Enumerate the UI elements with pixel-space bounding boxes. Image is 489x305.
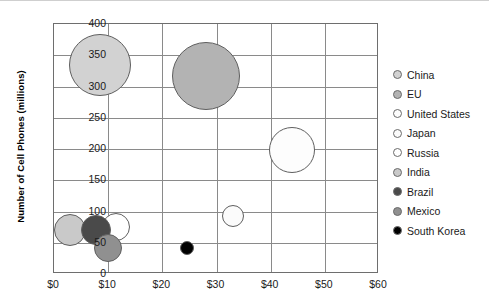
- x-tick-label: $40: [240, 278, 300, 290]
- legend-swatch-icon: [393, 207, 402, 216]
- legend-item-label: Japan: [407, 127, 436, 139]
- legend-item-label: South Korea: [407, 225, 465, 237]
- legend-item-label: Russia: [407, 147, 439, 159]
- legend-swatch-icon: [393, 90, 402, 99]
- legend-item-india[interactable]: India: [393, 163, 470, 183]
- legend-item-label: Mexico: [407, 205, 440, 217]
- y-tick-label: 200: [46, 142, 106, 154]
- legend-item-brazil[interactable]: Brazil: [393, 182, 470, 202]
- legend-swatch-icon: [393, 148, 402, 157]
- y-axis-title: Number of Cell Phones (millions): [15, 32, 26, 262]
- legend-item-label: United States: [407, 108, 470, 120]
- legend-item-eu[interactable]: EU: [393, 85, 470, 105]
- legend-item-label: EU: [407, 88, 422, 100]
- x-tick-label: $0: [23, 278, 83, 290]
- legend-item-label: Brazil: [407, 186, 433, 198]
- legend-swatch-icon: [393, 129, 402, 138]
- legend-item-label: China: [407, 69, 434, 81]
- legend-item-russia[interactable]: Russia: [393, 143, 470, 163]
- legend-item-south-korea[interactable]: South Korea: [393, 221, 470, 241]
- legend-item-china[interactable]: China: [393, 65, 470, 85]
- x-tick-label: $20: [131, 278, 191, 290]
- legend-item-japan[interactable]: Japan: [393, 124, 470, 144]
- legend-swatch-icon: [393, 187, 402, 196]
- y-tick-label: 300: [46, 80, 106, 92]
- bubble-chart: Number of Cell Phones (millions) 0501001…: [0, 1, 489, 305]
- bubble-eu[interactable]: [172, 42, 240, 110]
- chart-legend: ChinaEUUnited StatesJapanRussiaIndiaBraz…: [393, 65, 470, 241]
- y-tick-label: 150: [46, 173, 106, 185]
- y-tick-label: 100: [46, 205, 106, 217]
- gridline-vertical: [162, 24, 163, 272]
- x-tick-label: $50: [294, 278, 354, 290]
- legend-swatch-icon: [393, 226, 402, 235]
- y-tick-label: 350: [46, 48, 106, 60]
- y-tick-label: 400: [46, 17, 106, 29]
- legend-swatch-icon: [393, 168, 402, 177]
- y-tick-label: 250: [46, 111, 106, 123]
- x-tick-label: $30: [186, 278, 246, 290]
- bubble-japan[interactable]: [222, 205, 244, 227]
- legend-item-mexico[interactable]: Mexico: [393, 202, 470, 222]
- legend-swatch-icon: [393, 70, 402, 79]
- legend-item-label: India: [407, 166, 430, 178]
- gridline-vertical: [325, 24, 326, 272]
- bubble-united-states[interactable]: [269, 127, 315, 173]
- x-tick-label: $60: [348, 278, 408, 290]
- x-tick-label: $10: [77, 278, 137, 290]
- legend-swatch-icon: [393, 109, 402, 118]
- legend-item-united-states[interactable]: United States: [393, 104, 470, 124]
- bubble-south-korea[interactable]: [180, 241, 194, 255]
- y-tick-label: 50: [46, 236, 106, 248]
